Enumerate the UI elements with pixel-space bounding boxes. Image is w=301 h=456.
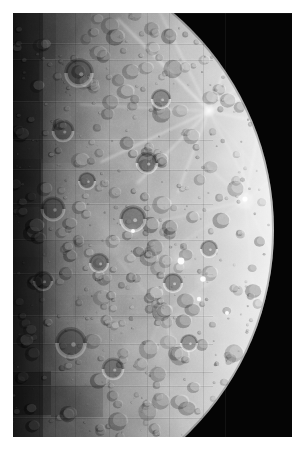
image-viewport xyxy=(0,0,301,456)
planet-disc xyxy=(13,13,292,437)
sky-background xyxy=(13,13,292,437)
image-caption xyxy=(0,440,301,456)
planet-mercury xyxy=(13,13,292,437)
